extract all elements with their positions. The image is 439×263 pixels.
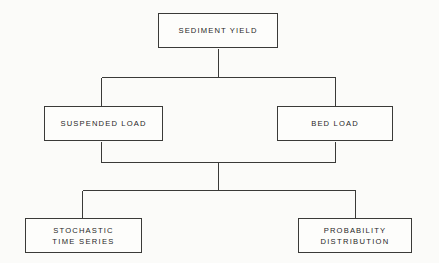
node-sediment-yield[interactable]: SEDIMENT YIELD	[158, 13, 278, 48]
node-label-bed-load: BED LOAD	[311, 118, 359, 129]
node-label-probability-distribution-line2: DISTRIBUTION	[320, 236, 389, 247]
node-label-sediment-yield: SEDIMENT YIELD	[178, 25, 257, 36]
diagram-canvas: SEDIMENT YIELD SUSPENDED LOAD BED LOAD S…	[0, 0, 439, 263]
node-label-stochastic-time-series-line2: TIME SERIES	[52, 236, 114, 247]
node-label-probability-distribution-line1: PROBABILITY	[324, 225, 386, 236]
node-stochastic-time-series[interactable]: STOCHASTIC TIME SERIES	[25, 218, 142, 253]
node-label-suspended-load: SUSPENDED LOAD	[60, 118, 146, 129]
node-bed-load[interactable]: BED LOAD	[277, 106, 393, 141]
node-probability-distribution[interactable]: PROBABILITY DISTRIBUTION	[298, 218, 412, 253]
node-label-stochastic-time-series-line1: STOCHASTIC	[53, 225, 113, 236]
node-suspended-load[interactable]: SUSPENDED LOAD	[44, 106, 163, 141]
